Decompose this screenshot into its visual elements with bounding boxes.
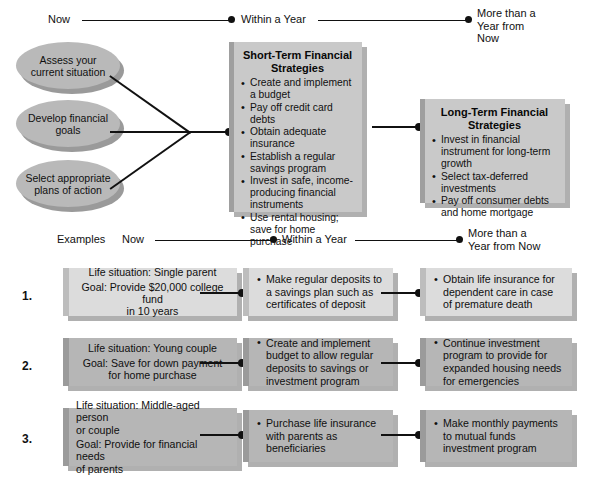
step-ellipse-plans[interactable]: Select appropriateplans of action [16,160,124,212]
goal-text-line2: of parents [76,463,229,475]
connector-row2-to-short-term [200,362,243,364]
short-term-action-text: Create and implement budget to allow reg… [257,337,385,387]
examples-timeline-dot-2 [456,236,463,243]
short-term-item: Establish a regular savings program [241,151,354,175]
examples-label: Examples [57,233,105,245]
examples-timeline-within-year-label: Within a Year [282,233,347,245]
connector-goals-to-junction [110,131,211,133]
timeline-segment-2 [318,20,468,22]
long-term-list: Invest in financial instrument for long-… [432,134,557,219]
example-short-term-action-box[interactable]: Create and implement budget to allow reg… [243,338,393,386]
long-term-action-text: Make monthly payments to mutual funds in… [434,417,564,455]
example-long-term-action-box[interactable]: Obtain life insurance for dependent care… [420,268,572,316]
examples-timeline-dot-1 [270,236,277,243]
connector-short-to-long-term [372,126,421,128]
examples-timeline-more-than-year-label: More than aYear from Now [468,227,578,252]
timeline-now-label: Now [48,13,70,25]
examples-timeline-now-label: Now [122,233,144,245]
timeline-within-year-label: Within a Year [241,13,306,25]
short-term-action-text: Purchase life insurance with parents as … [257,417,385,455]
timeline-segment-1 [82,20,231,22]
example-short-term-action-box[interactable]: Make regular deposits to a savings plan … [243,268,393,316]
step-ellipse-goals[interactable]: Develop financialgoals [16,100,124,152]
life-situation-text: Life situation: Young couple [76,342,229,354]
connector-row3-to-short-term [200,434,243,436]
long-term-action-text: Obtain life insurance for dependent care… [434,273,564,311]
timeline-dot-2 [465,16,472,23]
life-situation-text: Life situation: Single parent [76,266,229,278]
step-ellipse-assess[interactable]: Assess yourcurrent situation [16,42,124,94]
short-term-list: Create and implement a budget Pay off cr… [241,77,354,248]
step-label: Assess yourcurrent situation [25,54,112,78]
short-term-action-text: Make regular deposits to a savings plan … [257,273,385,311]
short-term-title: Short-Term FinancialStrategies [241,49,354,74]
short-term-item: Create and implement a budget [241,77,354,101]
goal-text-line2: in 10 years [76,305,229,317]
long-term-item: Pay off consumer debts and home mortgage [432,195,557,219]
short-term-strategies-box[interactable]: Short-Term FinancialStrategies Create an… [229,42,362,212]
goal-text-line2: for home purchase [76,369,229,381]
short-term-item: Pay off credit card debts [241,102,354,126]
example-number: 1. [22,289,32,303]
examples-timeline-segment-1 [155,240,273,242]
long-term-action-text: Continue investment program to provide f… [434,337,564,387]
example-number: 2. [22,359,32,373]
example-short-term-action-box[interactable]: Purchase life insurance with parents as … [243,410,393,462]
long-term-item: Select tax-deferred investments [432,171,557,195]
ellipse-face: Develop financialgoals [16,100,120,147]
timeline-dot-1 [228,16,235,23]
long-term-title: Long-Term FinancialStrategies [432,106,557,131]
step-label: Select appropriateplans of action [19,172,116,196]
example-long-term-action-box[interactable]: Make monthly payments to mutual funds in… [420,410,572,462]
long-term-item: Invest in financial instrument for long-… [432,134,557,170]
example-number: 3. [22,432,32,446]
step-label: Develop financialgoals [22,112,114,136]
long-term-strategies-box[interactable]: Long-Term FinancialStrategies Invest in … [420,99,565,203]
examples-timeline-segment-2 [355,240,459,242]
example-life-situation-box[interactable]: Life situation: Middle-aged person or co… [63,408,237,466]
short-term-item: Invest in safe, income-producing financi… [241,175,354,211]
example-long-term-action-box[interactable]: Continue investment program to provide f… [420,338,572,386]
ellipse-face: Select appropriateplans of action [16,160,120,207]
timeline-more-than-year-label: More than aYear fromNow [477,7,563,45]
goal-text-line1: Goal: Provide for financial needs [76,438,229,463]
short-term-item: Obtain adequate insurance [241,126,354,150]
connector-row1-to-short-term [200,292,243,294]
life-situation-text: Life situation: Middle-aged person [76,399,229,424]
ellipse-face: Assess yourcurrent situation [16,42,120,89]
